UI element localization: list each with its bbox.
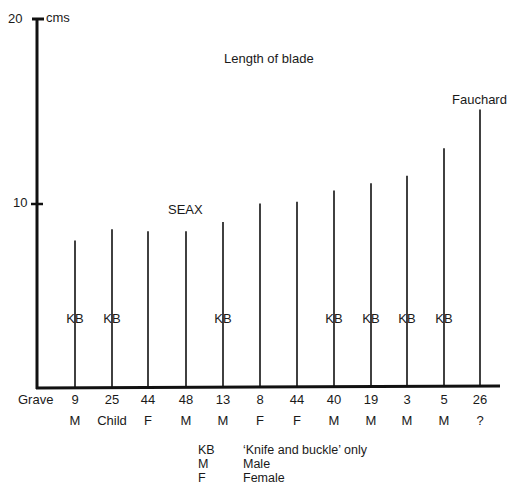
legend-label: Male	[243, 458, 270, 471]
sex-label: F	[144, 414, 152, 428]
kb-label: KB	[362, 312, 379, 326]
grave-number: 25	[105, 393, 119, 407]
legend-label: Female	[243, 472, 285, 485]
kb-label: KB	[103, 312, 120, 326]
kb-label: KB	[66, 312, 83, 326]
grave-number: 40	[327, 393, 341, 407]
grave-number: 13	[216, 393, 230, 407]
legend-key: KB	[198, 444, 215, 457]
seax-annotation: SEAX	[168, 203, 203, 217]
grave-number: 44	[141, 393, 155, 407]
legend: KB ‘Knife and buckle’ only M Male F Fema…	[198, 444, 398, 488]
grave-number: 44	[290, 393, 304, 407]
fauchard-annotation: Fauchard	[452, 93, 507, 107]
sex-label: M	[366, 414, 377, 428]
grave-number: 3	[403, 393, 410, 407]
blade-bars	[75, 109, 480, 387]
sex-label: F	[293, 414, 301, 428]
grave-number: 5	[440, 393, 447, 407]
y-tick-label-10: 10	[13, 196, 27, 210]
sex-label: M	[439, 414, 450, 428]
legend-key: F	[198, 472, 206, 485]
x-axis	[36, 386, 500, 388]
sex-label: ?	[476, 414, 483, 428]
grave-number: 48	[179, 393, 193, 407]
y-unit-label: cms	[46, 11, 70, 25]
grave-number: 19	[364, 393, 378, 407]
sex-label: Child	[97, 414, 127, 428]
grave-number: 8	[256, 393, 263, 407]
x-row-label-grave: Grave	[18, 393, 53, 407]
sex-label: M	[218, 414, 229, 428]
sex-label: M	[329, 414, 340, 428]
kb-label: KB	[214, 312, 231, 326]
grave-number: 26	[473, 393, 487, 407]
sex-label: M	[181, 414, 192, 428]
sex-label: M	[402, 414, 413, 428]
kb-label: KB	[435, 312, 452, 326]
chart-title: Length of blade	[224, 52, 314, 66]
legend-key: M	[198, 458, 208, 471]
kb-label: KB	[398, 312, 415, 326]
sex-label: F	[256, 414, 264, 428]
sex-label: M	[70, 414, 81, 428]
y-tick-label-20: 20	[8, 12, 22, 26]
grave-number: 9	[71, 393, 78, 407]
legend-label: ‘Knife and buckle’ only	[243, 444, 367, 457]
kb-label: KB	[325, 312, 342, 326]
